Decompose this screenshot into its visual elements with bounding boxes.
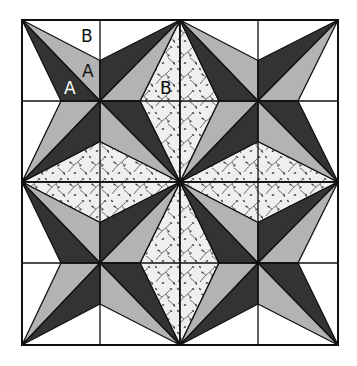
label-a-light: A — [82, 61, 94, 81]
quilt-diagram: B A A B — [0, 0, 357, 366]
label-b-background: B — [81, 26, 93, 46]
label-a-dark: A — [64, 78, 76, 98]
label-b-print: B — [160, 78, 172, 98]
